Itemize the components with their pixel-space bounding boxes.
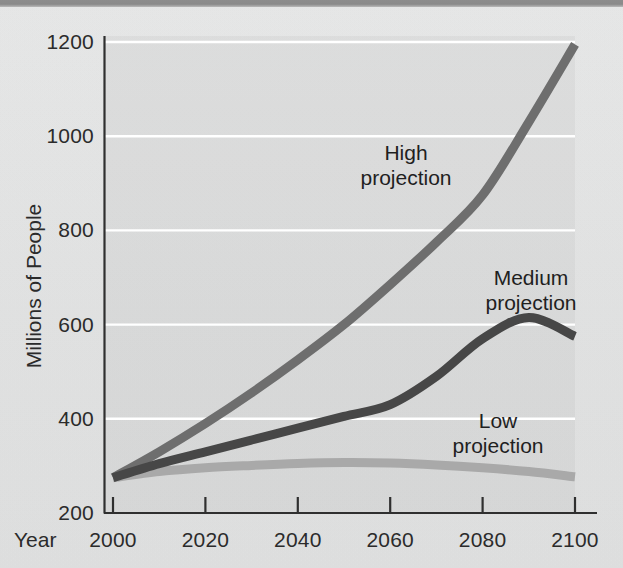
y-tick-label-1200: 1200 <box>16 30 94 54</box>
series-label-high-line1: High <box>336 140 476 165</box>
y-tick-label-200: 200 <box>16 501 94 525</box>
x-tick-label-2060: 2060 <box>366 528 414 552</box>
x-axis-title: Year <box>14 528 56 552</box>
series-label-low-line1: Low <box>428 408 568 433</box>
x-tick-label-2040: 2040 <box>274 528 322 552</box>
y-tick-label-1000: 1000 <box>16 124 94 148</box>
x-tick-label-2000: 2000 <box>89 528 137 552</box>
series-label-medium-line1: Medium <box>456 265 606 290</box>
gridlines-group <box>105 42 575 419</box>
series-line-low <box>113 463 575 478</box>
x-tick-label-2020: 2020 <box>182 528 230 552</box>
population-projection-chart: 20040060080010001200 2000202020402060208… <box>0 0 623 568</box>
series-label-medium: Medium projection <box>456 265 606 315</box>
x-tick-label-2080: 2080 <box>459 528 507 552</box>
tick-marks-group <box>113 497 575 512</box>
series-label-medium-line2: projection <box>456 290 606 315</box>
series-label-high-line2: projection <box>336 165 476 190</box>
series-label-high: High projection <box>336 140 476 190</box>
series-label-low-line2: projection <box>428 433 568 458</box>
x-tick-label-2100: 2100 <box>551 528 599 552</box>
y-axis-title: Millions of People <box>22 176 46 396</box>
y-tick-label-400: 400 <box>16 407 94 431</box>
series-label-low: Low projection <box>428 408 568 458</box>
